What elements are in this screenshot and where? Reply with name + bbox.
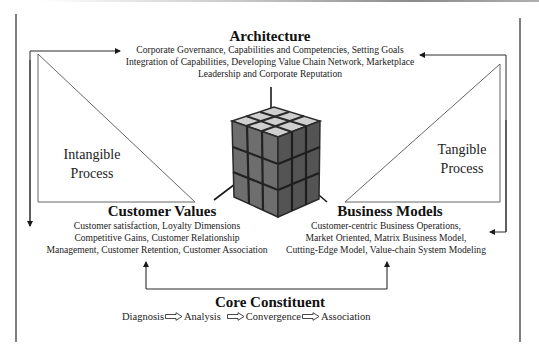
- architecture-line: Integration of Capabilities, Developing …: [100, 56, 440, 68]
- tangible-process-label: Tangible Process: [422, 140, 502, 178]
- tangible-line1: Tangible: [422, 140, 502, 159]
- customer-values-line: Competitive Gains, Customer Relationship: [30, 232, 284, 244]
- customer-values-line: Management, Customer Retention, Customer…: [30, 244, 284, 256]
- hollow-arrow-right-icon: [302, 312, 320, 321]
- hollow-arrow-right-icon: [227, 312, 245, 321]
- core-process-flow: Diagnosis Analysis Convergence Associati…: [122, 311, 371, 322]
- step-diagnosis: Diagnosis: [122, 311, 164, 322]
- architecture-title: Architecture: [170, 28, 370, 45]
- business-models-description: Customer-centric Business Operations, Ma…: [270, 220, 502, 257]
- business-models-line: Market Oriented, Matrix Business Model,: [270, 232, 502, 244]
- business-models-line: Customer-centric Business Operations,: [270, 220, 502, 232]
- customer-values-description: Customer satisfaction, Loyalty Dimension…: [30, 220, 284, 257]
- intangible-process-label: Intangible Process: [52, 145, 132, 183]
- step-association: Association: [321, 311, 371, 322]
- step-convergence: Convergence: [246, 311, 301, 322]
- architecture-line: Leadership and Corporate Reputation: [100, 68, 440, 80]
- business-models-line: Cutting-Edge Model, Value-chain System M…: [270, 244, 502, 256]
- customer-values-title: Customer Values: [80, 203, 244, 220]
- architecture-description: Corporate Governance, Capabilities and C…: [100, 44, 440, 81]
- hollow-arrow-right-icon: [165, 312, 183, 321]
- architecture-line: Corporate Governance, Capabilities and C…: [100, 44, 440, 56]
- intangible-line2: Process: [52, 164, 132, 183]
- core-constituent-title: Core Constituent: [170, 294, 370, 311]
- step-analysis: Analysis: [184, 311, 221, 322]
- business-models-title: Business Models: [300, 203, 480, 220]
- customer-values-line: Customer satisfaction, Loyalty Dimension…: [30, 220, 284, 232]
- intangible-line1: Intangible: [52, 145, 132, 164]
- tangible-line2: Process: [422, 159, 502, 178]
